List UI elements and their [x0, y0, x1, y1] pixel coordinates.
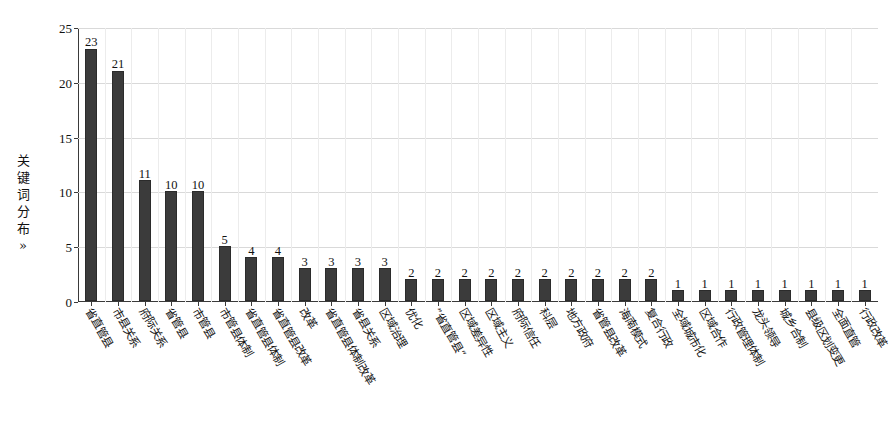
bar[interactable]: 1	[805, 290, 817, 301]
bar-value-label: 3	[355, 256, 361, 269]
bar-value-label: 3	[328, 256, 334, 269]
bar[interactable]: 2	[539, 279, 551, 301]
bar-value-label: 4	[275, 245, 281, 258]
plot-area: 0510152025232111101054433332222222222111…	[78, 28, 878, 302]
gridline-vertical	[558, 28, 559, 302]
bar-value-label: 2	[515, 267, 521, 280]
chart-figure: 关键词分布» 051015202523211110105443333222222…	[0, 0, 891, 443]
y-axis-title-char: 关	[10, 152, 36, 169]
gridline-vertical	[291, 28, 292, 302]
gridline-vertical	[745, 28, 746, 302]
bar-value-label: 1	[862, 278, 868, 291]
gridline-vertical	[265, 28, 266, 302]
bar-value-label: 2	[648, 267, 654, 280]
bar-value-label: 2	[408, 267, 414, 280]
bar[interactable]: 2	[405, 279, 417, 301]
bar[interactable]: 2	[459, 279, 471, 301]
bar[interactable]: 2	[485, 279, 497, 301]
bar[interactable]: 2	[512, 279, 524, 301]
bar[interactable]: 4	[272, 257, 284, 301]
bar[interactable]: 2	[592, 279, 604, 301]
bar-value-label: 1	[835, 278, 841, 291]
bar-value-label: 10	[192, 179, 205, 192]
gridline-vertical	[531, 28, 532, 302]
y-axis-title: 关键词分布»	[10, 152, 36, 254]
plot-inner: 0510152025232111101054433332222222222111…	[78, 28, 878, 302]
y-axis-title-char: 布	[10, 220, 36, 237]
gridline-vertical	[718, 28, 719, 302]
bar[interactable]: 3	[352, 268, 364, 301]
bar[interactable]: 2	[619, 279, 631, 301]
bar-value-label: 4	[248, 245, 254, 258]
bar[interactable]: 4	[245, 257, 257, 301]
y-tick-label: 15	[59, 131, 72, 144]
gridline-vertical	[478, 28, 479, 302]
bar-value-label: 1	[675, 278, 681, 291]
bar-value-label: 3	[302, 256, 308, 269]
x-axis-category-label: 市管县	[191, 306, 218, 340]
bar-value-label: 2	[595, 267, 601, 280]
gridline-vertical	[691, 28, 692, 302]
bar-value-label: 2	[568, 267, 574, 280]
bar[interactable]: 1	[859, 290, 871, 301]
gridline-vertical	[851, 28, 852, 302]
gridline-vertical	[318, 28, 319, 302]
y-tick-mark	[74, 192, 78, 193]
bar-value-label: 1	[782, 278, 788, 291]
bar[interactable]: 11	[139, 180, 151, 301]
gridline-vertical	[425, 28, 426, 302]
bar[interactable]: 1	[832, 290, 844, 301]
bar[interactable]: 23	[85, 49, 97, 301]
bar-value-label: 21	[112, 58, 125, 71]
bar-value-label: 2	[435, 267, 441, 280]
bar-value-label: 2	[622, 267, 628, 280]
bar[interactable]: 2	[432, 279, 444, 301]
gridline-vertical	[345, 28, 346, 302]
bar[interactable]: 2	[565, 279, 577, 301]
y-tick-mark	[74, 83, 78, 84]
gridline-vertical	[211, 28, 212, 302]
bar-value-label: 2	[488, 267, 494, 280]
bar[interactable]: 1	[699, 290, 711, 301]
bar[interactable]: 10	[165, 191, 177, 301]
bar[interactable]: 1	[672, 290, 684, 301]
bar[interactable]: 21	[112, 71, 124, 301]
gridline-vertical	[638, 28, 639, 302]
bar[interactable]: 10	[192, 191, 204, 301]
bar[interactable]: 3	[325, 268, 337, 301]
gridline-vertical	[238, 28, 239, 302]
y-tick-label: 5	[66, 241, 73, 254]
gridline-vertical	[451, 28, 452, 302]
x-axis-category-label: 改革	[297, 306, 318, 331]
y-axis-line	[78, 28, 79, 302]
y-axis-title-char: »	[10, 237, 36, 254]
bar[interactable]: 3	[299, 268, 311, 301]
bar[interactable]: 5	[219, 246, 231, 301]
bar[interactable]: 1	[752, 290, 764, 301]
bar[interactable]: 1	[725, 290, 737, 301]
x-axis-labels: 省直管县市县关系府际关系省管县市管县市管县体制省直管县体制省直管县改革改革省直管…	[78, 306, 878, 436]
gridline-vertical	[611, 28, 612, 302]
gridline-vertical	[131, 28, 132, 302]
y-axis-title-char: 分	[10, 203, 36, 220]
x-axis-category-label: 科层	[537, 306, 558, 331]
y-tick-mark	[74, 247, 78, 248]
bar-value-label: 3	[382, 256, 388, 269]
bar-value-label: 2	[462, 267, 468, 280]
y-axis-title-char: 词	[10, 186, 36, 203]
bar[interactable]: 1	[779, 290, 791, 301]
gridline-vertical	[185, 28, 186, 302]
bar[interactable]: 2	[645, 279, 657, 301]
bar-value-label: 1	[808, 278, 814, 291]
gridline-vertical	[158, 28, 159, 302]
bar-value-label: 1	[702, 278, 708, 291]
gridline-vertical	[398, 28, 399, 302]
bar[interactable]: 3	[379, 268, 391, 301]
x-axis-category-label: 省管县	[164, 306, 191, 340]
x-axis-category-label: 优化	[404, 306, 425, 331]
y-tick-label: 25	[59, 22, 72, 35]
gridline-vertical	[371, 28, 372, 302]
gridline-vertical	[105, 28, 106, 302]
y-tick-mark	[74, 138, 78, 139]
y-tick-label: 10	[59, 186, 72, 199]
